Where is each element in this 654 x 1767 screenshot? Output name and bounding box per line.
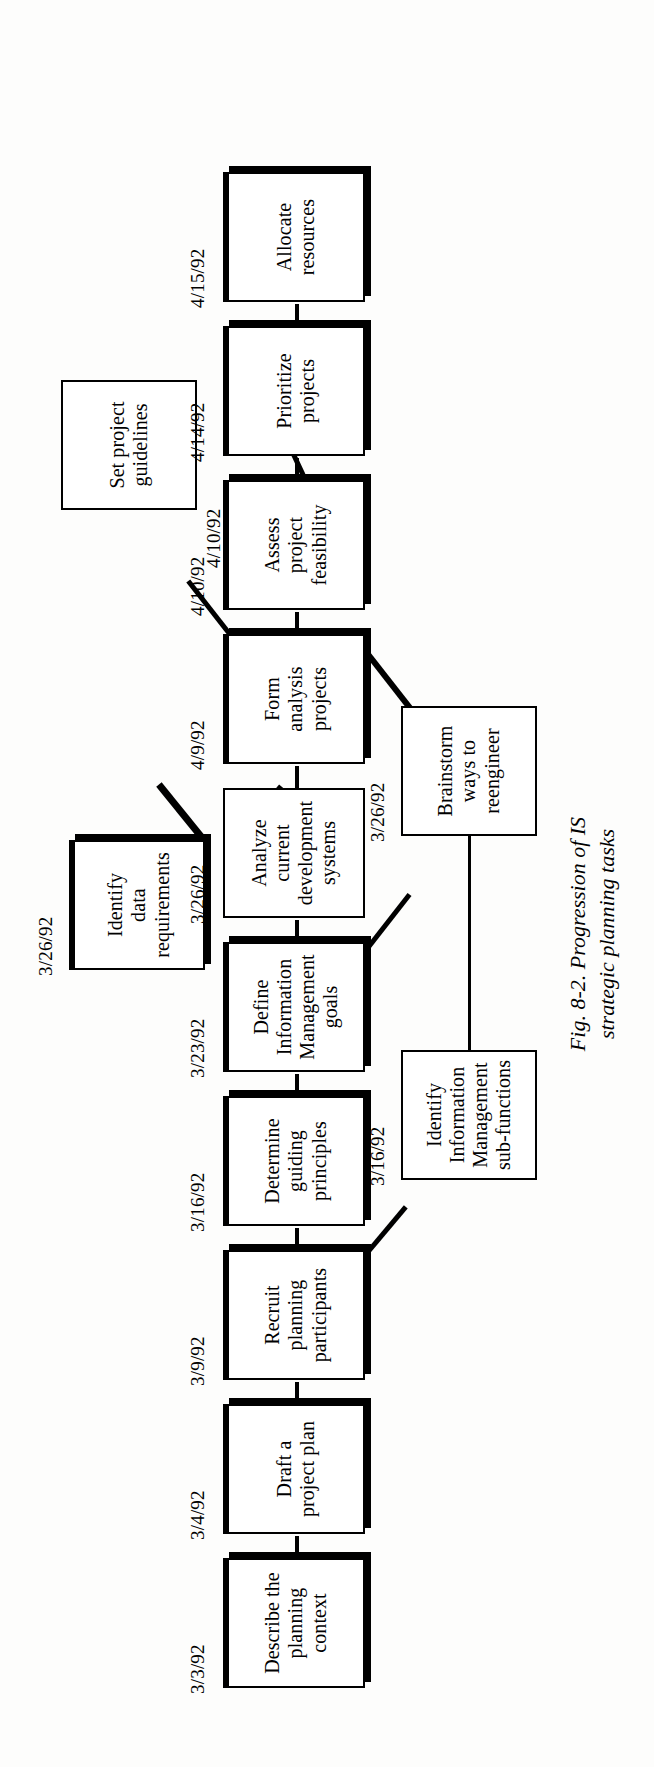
- figure-page: Describe theplanningcontext Draft aproje…: [0, 0, 654, 1767]
- edge-b4-n7: [156, 782, 208, 844]
- node-assess-project-feasibility[interactable]: Assessprojectfeasibility: [223, 480, 365, 610]
- edge-n9-n10: [295, 304, 299, 326]
- node-label: Assessprojectfeasibility: [261, 500, 331, 589]
- node-label: Determineguidingprinciples: [261, 1114, 331, 1207]
- node-analyze-current-development-systems[interactable]: Analyzecurrentdevelopmentsystems: [223, 788, 365, 918]
- node-label: Brainstormways toreengineer: [434, 721, 504, 820]
- date-label-3-9-92: 3/9/92: [187, 1336, 209, 1386]
- node-define-information-management-goals[interactable]: DefineInformationManagementgoals: [223, 942, 365, 1072]
- edge-n7-n8: [295, 612, 299, 634]
- node-allocate-resources[interactable]: Allocateresources: [223, 172, 365, 302]
- node-prioritize-projects[interactable]: Prioritizeprojects: [223, 326, 365, 456]
- edge-n5-b2: [360, 892, 412, 957]
- date-label-4-14-92: 4/14/92: [187, 402, 209, 461]
- date-label-3-3-92: 3/3/92: [187, 1644, 209, 1694]
- edge-n6-n7: [295, 766, 299, 788]
- node-describe-planning-context[interactable]: Describe theplanningcontext: [223, 1558, 365, 1688]
- node-label: Recruitplanningparticipants: [261, 1263, 331, 1366]
- date-label-3-26-92: 3/26/92: [187, 864, 209, 923]
- edge-n3-n4: [295, 1228, 299, 1250]
- flowchart-canvas: Describe theplanningcontext Draft aproje…: [27, 34, 627, 1734]
- node-identify-data-requirements[interactable]: Identifydatarequirements: [69, 840, 205, 970]
- node-label: Identifydatarequirements: [104, 848, 174, 962]
- node-label: Describe theplanningcontext: [261, 1568, 331, 1678]
- node-label: Analyzecurrentdevelopmentsystems: [248, 796, 341, 908]
- edge-n4-n5: [295, 1074, 299, 1096]
- date-label-branch-3-26-92: 3/26/92: [367, 782, 389, 841]
- edge-n3-b1: [358, 1205, 408, 1263]
- node-determine-guiding-principles[interactable]: Determineguidingprinciples: [223, 1096, 365, 1226]
- node-label: IdentifyInformationManagementsub-functio…: [423, 1055, 516, 1173]
- date-label-branch-4-10-92: 4/10/92: [203, 508, 225, 567]
- node-label: DefineInformationManagementgoals: [250, 950, 343, 1063]
- node-identify-information-management-sub-functions[interactable]: IdentifyInformationManagementsub-functio…: [401, 1050, 537, 1180]
- node-label: Prioritizeprojects: [273, 349, 319, 432]
- date-label-4-9-92: 4/9/92: [187, 720, 209, 770]
- node-label: Formanalysisprojects: [261, 662, 331, 735]
- node-form-analysis-projects[interactable]: Formanalysisprojects: [223, 634, 365, 764]
- edge-n1-n2: [295, 1536, 299, 1558]
- date-label-branch-3-26-92-upper: 3/26/92: [35, 916, 57, 975]
- date-label-4-15-92: 4/15/92: [187, 248, 209, 307]
- node-draft-a-project-plan[interactable]: Draft aproject plan: [223, 1404, 365, 1534]
- date-label-3-4-92: 3/4/92: [187, 1490, 209, 1540]
- edge-b1-b2: [468, 836, 471, 1050]
- node-label: Allocateresources: [273, 194, 319, 278]
- node-recruit-planning-participants[interactable]: Recruitplanningparticipants: [223, 1250, 365, 1380]
- figure-caption: Fig. 8-2. Progression of IS strategic pl…: [563, 694, 621, 1174]
- edge-n5-n6: [295, 920, 299, 942]
- date-label-3-16-92: 3/16/92: [187, 1172, 209, 1231]
- node-label: Set projectguidelines: [106, 397, 152, 492]
- node-set-project-guidelines[interactable]: Set projectguidelines: [61, 380, 197, 510]
- node-brainstorm-ways-to-reengineer[interactable]: Brainstormways toreengineer: [401, 706, 537, 836]
- edge-n2-n3: [295, 1382, 299, 1404]
- date-label-3-23-92: 3/23/92: [187, 1018, 209, 1077]
- edge-n7-b2: [358, 642, 413, 710]
- node-label: Draft aproject plan: [273, 1416, 319, 1520]
- date-label-branch-3-16-92: 3/16/92: [367, 1126, 389, 1185]
